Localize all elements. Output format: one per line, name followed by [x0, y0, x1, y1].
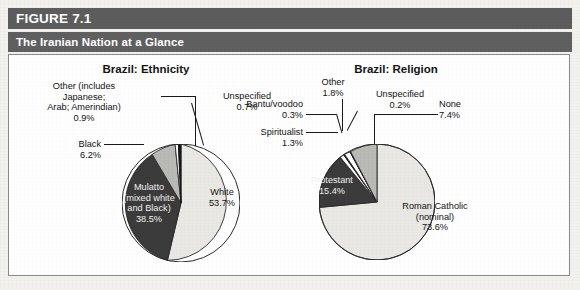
pie-chart-religion: Brazil: Religion	[281, 55, 571, 277]
leader-unspecified-religion	[347, 111, 358, 131]
leader-bantu-horizontal	[306, 114, 336, 115]
label-bantu-voodoo: Bantu/voodoo 0.3%	[217, 99, 303, 120]
label-unspecified-religion: Unspecified 0.2%	[357, 89, 443, 110]
figure-number-band: FIGURE 7.1	[8, 8, 572, 29]
figure-body: Brazil: Ethnicity White 5	[8, 54, 570, 276]
pie-chart-ethnicity: Brazil: Ethnicity White 5	[9, 55, 299, 277]
leader-none-horizontal	[374, 114, 438, 115]
label-roman-catholic: Roman Catholic (nominal) 73.6%	[381, 201, 489, 233]
label-mulatto: Mulatto (mixed white and Black) 38.5%	[105, 182, 193, 224]
figure-title-band: The Iranian Nation at a Glance	[8, 32, 572, 52]
chart-title-religion: Brazil: Religion	[251, 63, 541, 75]
leader-unspecified	[191, 103, 204, 146]
leader-black	[104, 144, 144, 145]
label-other-religion: Other 1.8%	[301, 77, 365, 98]
label-none: None 7.4%	[439, 99, 501, 120]
label-protestant: Protestant 15.4%	[295, 175, 369, 196]
label-black: Black 6.2%	[29, 139, 101, 160]
figure-number-label: FIGURE 7.1	[8, 11, 92, 26]
leader-other-religion	[342, 99, 343, 131]
leader-spiritualist	[306, 132, 338, 133]
chart-title-ethnicity: Brazil: Ethnicity	[1, 63, 291, 75]
label-spiritualist: Spiritualist 1.3%	[221, 127, 303, 148]
figure-title-label: The Iranian Nation at a Glance	[8, 36, 184, 48]
label-other: Other (includes Japanese; Arab; Amerindi…	[11, 81, 157, 123]
label-white: White 53.7%	[187, 187, 257, 208]
figure-page: FIGURE 7.1 The Iranian Nation at a Glanc…	[0, 0, 580, 290]
leader-none-vertical	[374, 114, 375, 144]
leader-other-horizontal	[161, 96, 195, 97]
